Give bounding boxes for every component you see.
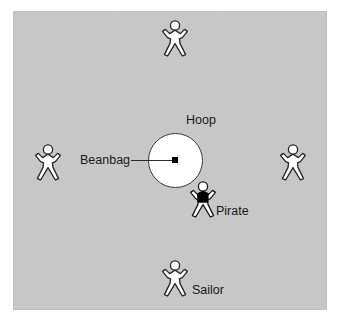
beanbag-leader-line: [131, 160, 175, 161]
figure-left: [32, 143, 64, 185]
figure-sailor: [159, 259, 191, 301]
beanbag-label: Beanbag: [80, 154, 130, 167]
stick-figure-pirate-icon: [187, 180, 219, 218]
beanbag-marker: [172, 157, 178, 163]
stick-figure-outline-icon: [277, 143, 309, 181]
hoop-label: Hoop: [186, 114, 216, 127]
pirate-label: Pirate: [216, 205, 249, 218]
sailor-label: Sailor: [192, 284, 224, 297]
stick-figure-outline-icon: [159, 259, 191, 297]
diagram-canvas: Hoop Beanbag: [0, 0, 339, 328]
stick-figure-outline-icon: [159, 19, 191, 57]
figure-pirate: [187, 180, 219, 222]
figure-right: [277, 143, 309, 185]
stick-figure-outline-icon: [32, 143, 64, 181]
figure-top: [159, 19, 191, 61]
